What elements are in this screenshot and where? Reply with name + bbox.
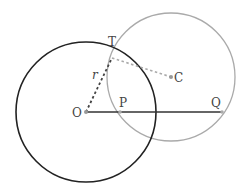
geometry-diagram: O P Q T C r bbox=[0, 0, 246, 195]
point-q bbox=[220, 110, 224, 114]
point-c bbox=[169, 75, 173, 79]
point-p bbox=[118, 110, 122, 114]
label-c: C bbox=[174, 71, 183, 85]
label-t: T bbox=[108, 35, 116, 49]
label-r: r bbox=[92, 68, 99, 82]
point-o bbox=[84, 110, 88, 114]
label-o: O bbox=[72, 106, 82, 120]
segment-tc bbox=[112, 58, 171, 77]
label-q: Q bbox=[211, 96, 221, 110]
label-p: P bbox=[119, 96, 127, 110]
